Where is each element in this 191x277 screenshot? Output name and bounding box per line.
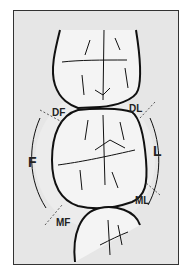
label-mf: MF bbox=[56, 218, 70, 228]
tooth-diagram bbox=[0, 0, 191, 277]
label-dl: DL bbox=[129, 104, 142, 114]
label-f: F bbox=[28, 155, 37, 169]
central-tooth bbox=[52, 109, 147, 208]
upper-tooth bbox=[53, 30, 140, 108]
label-df: DF bbox=[52, 108, 65, 118]
label-ml: ML bbox=[135, 196, 149, 206]
label-l: L bbox=[153, 144, 162, 158]
